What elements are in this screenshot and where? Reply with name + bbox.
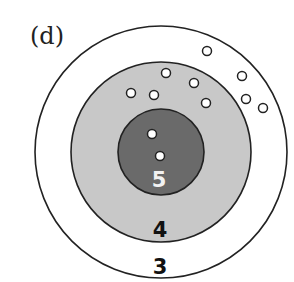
hit-point (190, 79, 199, 88)
target-diagram: (d) 345 (0, 0, 294, 282)
hit-point (259, 104, 268, 113)
hit-point (127, 89, 136, 98)
hit-point (162, 69, 171, 78)
ring-4-label: 4 (153, 218, 168, 242)
hit-point (156, 152, 165, 161)
target-rings: 345 (0, 0, 294, 282)
hit-point (202, 99, 211, 108)
hit-point (150, 91, 159, 100)
hit-point (238, 72, 247, 81)
hit-point (148, 130, 157, 139)
hit-point (242, 95, 251, 104)
ring-3-label: 3 (153, 255, 168, 279)
ring-5-label: 5 (152, 168, 167, 192)
hit-point (203, 47, 212, 56)
